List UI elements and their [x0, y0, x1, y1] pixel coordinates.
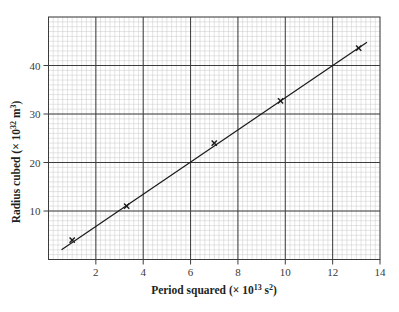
- x-axis-label: Period squared (× 1013 s2): [151, 283, 277, 297]
- x-tick-label: 8: [235, 266, 241, 278]
- x-tick-label: 2: [93, 266, 99, 278]
- x-tick-label: 6: [188, 266, 194, 278]
- x-tick-label: 10: [280, 266, 292, 278]
- x-tick-label: 4: [140, 266, 146, 278]
- y-tick-label: 20: [30, 157, 42, 169]
- y-tick-label: 30: [30, 108, 42, 120]
- minor-grid: [49, 17, 381, 260]
- chart: 246810121410203040 Period squared (× 101…: [0, 0, 399, 312]
- x-tick-label: 12: [327, 266, 338, 278]
- y-tick-label: 10: [30, 205, 42, 217]
- x-tick-label: 14: [375, 266, 387, 278]
- y-axis-label: Radius cubed (× 1032 m3): [9, 100, 23, 223]
- y-tick-label: 40: [30, 60, 42, 72]
